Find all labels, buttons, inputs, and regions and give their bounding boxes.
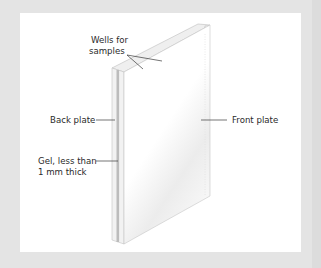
gel-label-line1: Gel, less than — [38, 156, 97, 166]
wells-label-line2: samples — [89, 46, 125, 56]
gel-layer-strip — [117, 70, 120, 242]
gel-label-line2: 1 mm thick — [38, 167, 87, 177]
front-plate-label: Front plate — [232, 115, 278, 125]
back-plate-label: Back plate — [50, 115, 95, 125]
gel-plate-diagram — [0, 0, 321, 268]
wells-label-line1: Wells for — [91, 35, 128, 45]
